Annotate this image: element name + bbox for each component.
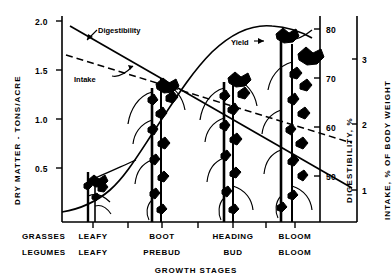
flower-cluster bbox=[276, 28, 324, 212]
yield-arrowhead bbox=[258, 38, 264, 44]
chart-plot-area bbox=[0, 0, 392, 280]
plant-group-boot bbox=[128, 78, 185, 222]
plant-illustrations bbox=[84, 28, 324, 222]
chart-figure: DRY MATTER - TONS/ACRE DIGESTIBILITY, % … bbox=[0, 0, 392, 280]
left-axis-ticks bbox=[56, 21, 62, 168]
plant-group-heading bbox=[200, 72, 257, 222]
bottom-axis-ticks bbox=[93, 222, 295, 228]
